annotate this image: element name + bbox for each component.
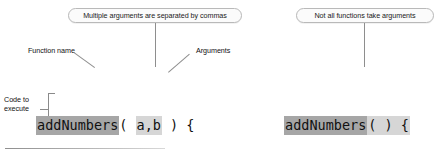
empty-parens-brace-right: ( ) { bbox=[367, 116, 410, 135]
callout-not-all-functions-take-arguments: Not all functions take arguments bbox=[296, 8, 434, 23]
callout-multiple-arguments-text: Multiple arguments are separated by comm… bbox=[83, 12, 227, 19]
open-paren-left: ( bbox=[119, 117, 135, 133]
label-code-to-execute: Code to execute bbox=[4, 96, 40, 113]
label-arguments: Arguments bbox=[196, 46, 230, 55]
label-function-name: Function name bbox=[28, 46, 75, 55]
function-name-highlight-right: addNumbers bbox=[284, 116, 367, 135]
function-name-highlight-left: addNumbers bbox=[36, 116, 119, 135]
leader-line-function-name bbox=[73, 52, 95, 68]
leader-line-not-all-functions bbox=[364, 23, 365, 67]
bottom-divider bbox=[5, 148, 165, 149]
code-line-signature-right: addNumbers( ) { bbox=[284, 114, 422, 136]
code-block-no-arguments: addNumbers( ) { return 2 + 2; } bbox=[284, 70, 422, 156]
arguments-highlight-left: a,b bbox=[136, 116, 162, 135]
leader-line-multiple-arguments bbox=[155, 23, 156, 67]
close-paren-brace-left: ) { bbox=[162, 117, 195, 133]
code-block-with-arguments: addNumbers( a,b ) { return a + b; } bbox=[36, 70, 194, 156]
callout-multiple-arguments: Multiple arguments are separated by comm… bbox=[68, 8, 242, 23]
callout-not-all-functions-take-arguments-text: Not all functions take arguments bbox=[314, 12, 415, 19]
function-anatomy-figure: Multiple arguments are separated by comm… bbox=[0, 0, 442, 156]
code-line-signature-left: addNumbers( a,b ) { bbox=[36, 114, 194, 136]
